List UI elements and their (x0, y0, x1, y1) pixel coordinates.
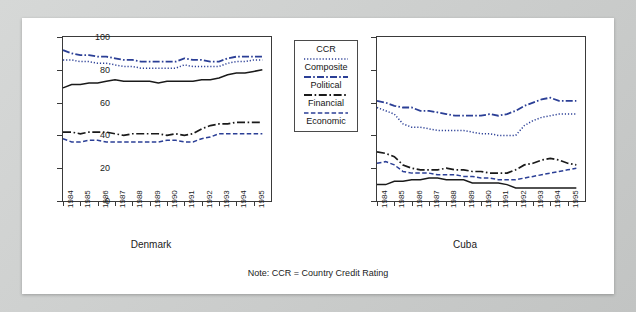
series-line-financial (377, 152, 576, 173)
x-tick-mark (236, 201, 237, 206)
y-tick-mark (371, 168, 376, 169)
x-tick-label: 1991 (188, 190, 196, 208)
legend-line-sample (304, 74, 348, 80)
x-tick-label: 1994 (554, 190, 562, 208)
y-tick-mark (371, 37, 376, 38)
y-tick-mark (57, 37, 62, 38)
x-tick-mark (412, 201, 413, 206)
y-tick-mark (371, 201, 376, 202)
y-tick-label: 60 (100, 98, 110, 107)
x-tick-mark (63, 201, 64, 206)
plot-area-denmark (62, 36, 272, 202)
y-tick-mark (371, 135, 376, 136)
x-tick-mark (533, 201, 534, 206)
x-tick-label: 1995 (258, 190, 266, 208)
x-tick-mark (550, 201, 551, 206)
legend-line-sample (304, 92, 348, 98)
x-tick-mark (481, 201, 482, 206)
legend-line-sample (304, 110, 348, 116)
y-tick-mark (57, 168, 62, 169)
x-tick-mark (98, 201, 99, 206)
x-tick-mark (516, 201, 517, 206)
x-tick-mark (167, 201, 168, 206)
series-line-political (377, 98, 576, 116)
x-tick-mark (377, 201, 378, 206)
x-tick-mark (254, 201, 255, 206)
x-tick-mark (132, 201, 133, 206)
y-tick-mark (57, 201, 62, 202)
series-line-ccr (377, 178, 576, 188)
x-tick-label: 1984 (67, 190, 75, 208)
x-tick-mark (429, 201, 430, 206)
x-tick-label: 1995 (572, 190, 580, 208)
x-tick-label: 1985 (398, 190, 406, 208)
x-tick-label: 1991 (502, 190, 510, 208)
series-line-ccr (63, 70, 262, 88)
x-tick-label: 1990 (485, 190, 493, 208)
y-tick-label: 20 (100, 164, 110, 173)
x-tick-label: 1993 (537, 190, 545, 208)
y-tick-label: 0 (105, 197, 110, 206)
x-tick-label: 1993 (223, 190, 231, 208)
x-tick-label: 1984 (381, 190, 389, 208)
y-tick-label: 80 (100, 65, 110, 74)
chart-panel-cuba: 020406080100 198419851986198719881989199… (344, 26, 606, 261)
x-tick-label: 1985 (84, 190, 92, 208)
series-line-political (63, 50, 262, 61)
x-tick-label: 1988 (450, 190, 458, 208)
x-tick-mark (184, 201, 185, 206)
figure-note: Note: CCR = Country Credit Rating (22, 268, 614, 278)
figure-page: 020406080100 198419851986198719881989199… (0, 0, 636, 312)
y-tick-mark (371, 103, 376, 104)
x-tick-mark (150, 201, 151, 206)
x-tick-label: 1987 (119, 190, 127, 208)
x-tick-mark (202, 201, 203, 206)
y-tick-label: 40 (100, 131, 110, 140)
y-tick-mark (371, 70, 376, 71)
panel-title-cuba: Cuba (360, 239, 570, 250)
figure-paper: 020406080100 198419851986198719881989199… (22, 18, 614, 294)
y-tick-label: 100 (95, 33, 110, 42)
legend-line-sample (304, 56, 348, 62)
series-line-composite (377, 108, 576, 136)
x-tick-mark (446, 201, 447, 206)
plot-area-cuba (376, 36, 586, 202)
x-tick-label: 1988 (136, 190, 144, 208)
lines-denmark (63, 37, 271, 201)
x-tick-label: 1986 (416, 190, 424, 208)
x-tick-mark (219, 201, 220, 206)
x-tick-label: 1994 (240, 190, 248, 208)
x-tick-mark (394, 201, 395, 206)
y-tick-mark (57, 135, 62, 136)
x-tick-label: 1992 (520, 190, 528, 208)
panel-title-denmark: Denmark (46, 239, 256, 250)
y-tick-mark (57, 103, 62, 104)
y-tick-mark (57, 70, 62, 71)
x-tick-mark (115, 201, 116, 206)
x-tick-mark (464, 201, 465, 206)
x-tick-label: 1989 (468, 190, 476, 208)
x-tick-mark (80, 201, 81, 206)
chart-panel-denmark: 020406080100 198419851986198719881989199… (30, 26, 290, 261)
x-tick-mark (498, 201, 499, 206)
x-tick-label: 1987 (433, 190, 441, 208)
series-line-financial (63, 122, 262, 135)
x-tick-label: 1992 (206, 190, 214, 208)
x-tick-label: 1989 (154, 190, 162, 208)
lines-cuba (377, 37, 585, 201)
x-tick-mark (568, 201, 569, 206)
x-tick-label: 1990 (171, 190, 179, 208)
